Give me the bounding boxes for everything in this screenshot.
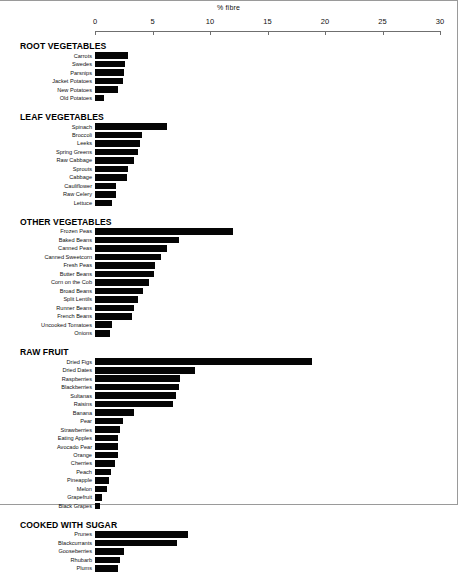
bar-label: Strawberries (61, 426, 92, 434)
group-spacer (0, 103, 458, 112)
bar-label: Orange (73, 451, 92, 459)
bar-label: Cabbage (69, 173, 92, 181)
bar-label: Plums (76, 564, 92, 572)
bar (95, 149, 138, 156)
bar-row: Sprouts (0, 165, 458, 173)
bar-row: Cherries (0, 460, 458, 468)
bar-row: Canned Peas (0, 245, 458, 253)
bar (95, 557, 120, 564)
bar (95, 330, 110, 337)
bar (95, 460, 115, 467)
bar-label: Leeks (77, 139, 92, 147)
bar (95, 358, 312, 365)
axis-tick-mark (95, 31, 96, 35)
bar-row: Carrots (0, 52, 458, 60)
bar (95, 262, 155, 269)
bar-row: Butter Beans (0, 270, 458, 278)
bar-label: Raspberries (62, 375, 92, 383)
bar-row: New Potatoes (0, 86, 458, 94)
bar-label: Old Potatoes (60, 94, 92, 102)
bar-label: New Potatoes (57, 86, 92, 94)
bar-label: Spring Greens (56, 148, 92, 156)
bar (95, 132, 142, 139)
bar-label: Uncooked Tomatoes (41, 321, 92, 329)
bar-label: Broad Beans (60, 287, 92, 295)
bar-label: Lettuce (74, 199, 92, 207)
bar-label: Split Lentils (63, 295, 92, 303)
bar-label: Carrots (74, 52, 92, 60)
bar (95, 52, 128, 59)
axis-tick-label: 30 (436, 17, 444, 26)
bar-group: RAW FRUITDried FigsDried DatesRaspberrie… (0, 347, 458, 510)
bar (95, 548, 124, 555)
bar-row: Spinach (0, 123, 458, 131)
bar-label: Pineapple (67, 476, 92, 484)
bar-row: Cabbage (0, 174, 458, 182)
plot-area: ROOT VEGETABLESCarrotsSwedesParsnipsJack… (0, 41, 458, 503)
bar (95, 271, 154, 278)
axis-tick-label: 0 (93, 17, 97, 26)
bar-row: Blackcurrants (0, 539, 458, 547)
bar (95, 228, 233, 235)
x-axis: 051015202530 (95, 17, 440, 39)
bar-group-title: OTHER VEGETABLES (20, 217, 458, 228)
bar (95, 305, 134, 312)
bar-label: Onions (74, 329, 92, 337)
bar-row: Broad Beans (0, 287, 458, 295)
bar-row: Eating Apples (0, 434, 458, 442)
bar (95, 384, 179, 391)
bar-row: Sultanas (0, 392, 458, 400)
bar-row: Runner Beans (0, 304, 458, 312)
bar-label: Black Grapes (58, 502, 92, 510)
bar-row: Raw Celery (0, 191, 458, 199)
bar-row: Raisins (0, 400, 458, 408)
bar (95, 375, 180, 382)
bar-row: Leeks (0, 140, 458, 148)
bar (95, 486, 107, 493)
axis-tick-mark (153, 31, 154, 35)
bar (95, 469, 111, 476)
bar-label: Canned Peas (58, 244, 92, 252)
bar-row: Melon (0, 485, 458, 493)
bar-row: Spring Greens (0, 148, 458, 156)
bar-row: Gooseberries (0, 548, 458, 556)
axis-tick-mark (440, 31, 441, 35)
bar (95, 443, 118, 450)
bar-label: Canned Sweetcorn (44, 253, 92, 261)
bar-row: Lettuce (0, 199, 458, 207)
bar-label: Rhubarb (71, 556, 92, 564)
bar-row: Jacket Potatoes (0, 77, 458, 85)
bar-row: Onions (0, 330, 458, 338)
bar-label: Eating Apples (58, 434, 92, 442)
bar-row: Raw Cabbage (0, 157, 458, 165)
bar-row: Split Lentils (0, 296, 458, 304)
bar (95, 540, 177, 547)
bar-label: Baked Beans (59, 236, 92, 244)
bar (95, 503, 100, 510)
bar-label: Raisins (74, 400, 92, 408)
bar-label: Prunes (74, 530, 92, 538)
bar-label: Sprouts (73, 165, 92, 173)
bar-row: Banana (0, 409, 458, 417)
bar-label: Melon (77, 485, 92, 493)
bar (95, 401, 173, 408)
bar-row: Pear (0, 417, 458, 425)
bar-row: Rhubarb (0, 556, 458, 564)
bar-label: Peach (76, 468, 92, 476)
bar-label: Pear (80, 417, 92, 425)
bar-label: Frozen Peas (60, 227, 92, 235)
axis-tick-label: 5 (150, 17, 154, 26)
bar-label: Fresh Peas (63, 261, 92, 269)
axis-tick-label: 20 (321, 17, 329, 26)
bar-row: Blackberries (0, 384, 458, 392)
axis-tick-mark (268, 31, 269, 35)
bar-row: Peach (0, 468, 458, 476)
bar-label: Spinach (72, 123, 92, 131)
bar-row: Pineapple (0, 477, 458, 485)
bar-row: Plums (0, 565, 458, 572)
bar-label: Runner Beans (56, 304, 92, 312)
bar-group: LEAF VEGETABLESSpinachBroccoliLeeksSprin… (0, 112, 458, 207)
bar-row: Orange (0, 451, 458, 459)
bar-row: Grapefruit (0, 494, 458, 502)
bar-label: Blackberries (61, 383, 92, 391)
